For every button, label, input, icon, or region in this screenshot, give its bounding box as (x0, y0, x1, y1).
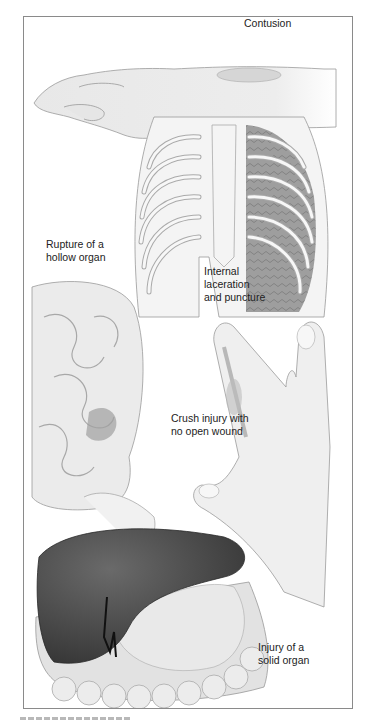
figure-caption-cropped (20, 716, 220, 721)
label-rupture-hollow-organ: Rupture of a hollow organ (46, 238, 106, 264)
liver-illustration (36, 529, 268, 709)
injury-illustrations (24, 17, 353, 709)
intestine-illustration (32, 282, 155, 541)
label-internal-laceration: Internal laceration and puncture (204, 265, 265, 304)
label-crush-injury: Crush injury with no open wound (171, 412, 249, 438)
label-solid-organ-injury: Injury of a solid organ (258, 641, 309, 667)
caption-text-fragment (20, 717, 130, 720)
figure-frame: Contusion Rupture of a hollow organ Inte… (23, 16, 353, 709)
label-contusion: Contusion (244, 17, 291, 30)
